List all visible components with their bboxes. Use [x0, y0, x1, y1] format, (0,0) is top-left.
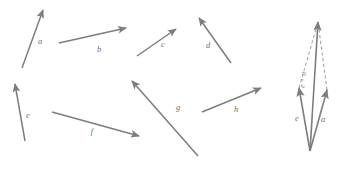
vector-label-a: a — [38, 36, 42, 46]
vector-arrow-d — [199, 18, 231, 63]
vector-label-h: h — [234, 104, 238, 114]
vector-arrow-b — [59, 28, 126, 43]
resultant-sum-label: e + a — [297, 71, 308, 88]
vector-label-d: d — [206, 40, 211, 50]
vector-diagram-figure: abcdefgh eae + a — [0, 0, 341, 169]
vector-arrow-f — [52, 112, 139, 136]
vector-label-g: g — [176, 102, 180, 112]
vector-label-f: f — [91, 126, 95, 136]
vector-arrow-g — [132, 81, 198, 156]
dash-a-to-apex — [318, 22, 327, 90]
vector-label-b: b — [97, 44, 101, 54]
vector-label-c: c — [161, 39, 165, 49]
resultant-arrow-e — [299, 88, 310, 151]
vector-canvas: abcdefgh eae + a — [0, 0, 341, 169]
resultant-label-a: a — [321, 114, 325, 124]
resultant-arrow-sum — [310, 22, 318, 151]
vector-arrow-e — [15, 84, 25, 141]
vector-label-e: e — [26, 110, 30, 120]
parallelogram-sum-group: eae + a — [295, 22, 327, 151]
vector-arrow-h — [202, 88, 261, 112]
labeled-vectors-group: abcdefgh — [15, 10, 261, 156]
resultant-label-e: e — [295, 113, 299, 123]
vector-arrow-c — [137, 29, 176, 56]
